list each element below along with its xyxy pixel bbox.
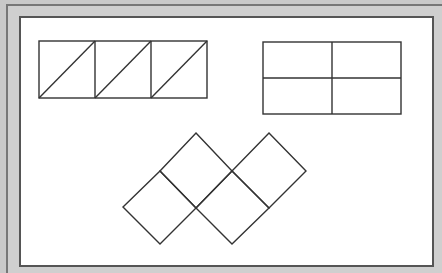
diagram-figure — [0, 0, 442, 273]
shape-tilted-squares — [123, 133, 306, 244]
shape-rectangle-diagonals — [39, 41, 207, 98]
shape-rectangle-quartered — [263, 42, 401, 114]
